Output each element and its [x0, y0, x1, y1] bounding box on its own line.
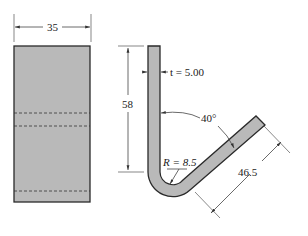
side-view: 58 t = 5.00 40° R = 8.5 46.5 — [118, 46, 290, 218]
thickness-label: t = 5.00 — [170, 66, 205, 78]
radius-label: R = 8.5 — [162, 156, 197, 168]
leg-length-label: 46.5 — [238, 166, 258, 178]
angle-label: 40° — [201, 112, 216, 124]
front-view: 35 — [14, 14, 91, 202]
front-plate — [14, 46, 90, 202]
leg-dimension-line-bottom — [211, 174, 250, 213]
angle-arc-upper — [161, 112, 200, 118]
leg-extension-top — [264, 126, 290, 153]
leg-extension-bottom — [195, 192, 220, 218]
height-label: 58 — [122, 98, 134, 110]
radius-leader-arrow — [170, 169, 179, 184]
width-label: 35 — [47, 21, 59, 33]
leg-dimension-line-top — [262, 142, 281, 161]
drawing-canvas: 35 58 t = 5.00 40° R = 8.5 46. — [0, 0, 308, 236]
